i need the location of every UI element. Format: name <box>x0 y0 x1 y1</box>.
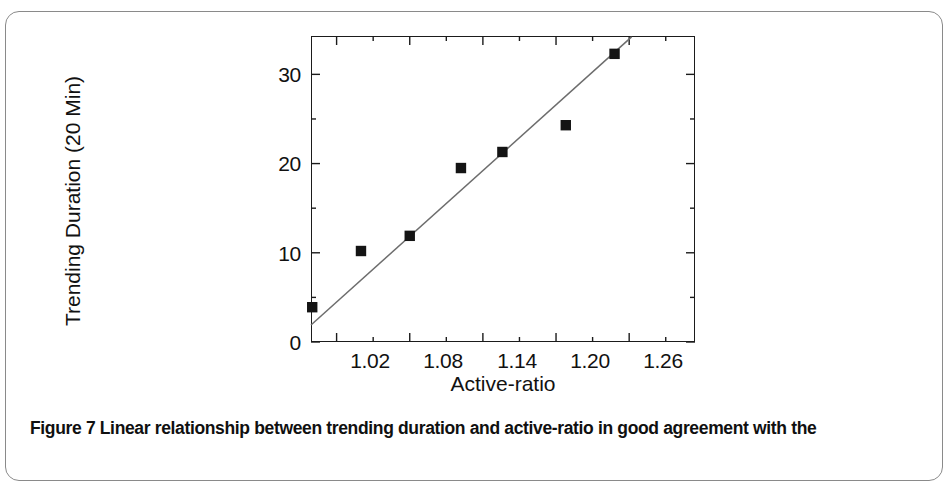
data-point-markers <box>307 49 620 313</box>
data-point <box>561 120 571 130</box>
y-minor-ticks <box>311 119 316 297</box>
linear-fit-line <box>311 37 632 325</box>
data-point <box>405 231 415 241</box>
x-major-ticks <box>337 333 630 342</box>
data-point <box>456 163 466 173</box>
data-point <box>356 246 366 256</box>
figure-plot-area: 30 20 10 0 1.02 1.08 1.14 1.20 1.26 Tren… <box>0 0 949 392</box>
top-axis-ticks <box>337 36 666 45</box>
plot-canvas <box>0 0 949 392</box>
data-point <box>307 302 317 312</box>
right-axis-ticks <box>686 74 695 342</box>
figure-caption: Figure 7 Linear relationship between tre… <box>30 418 920 439</box>
data-point <box>497 147 507 157</box>
x-minor-ticks <box>373 337 666 342</box>
data-point <box>609 49 619 59</box>
